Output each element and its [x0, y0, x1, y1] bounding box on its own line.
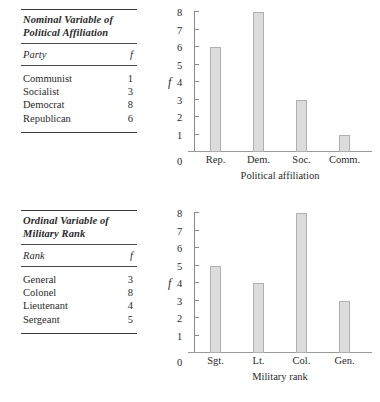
table-row: Lieutenant 4 — [21, 299, 137, 312]
table-row: Socialist 3 — [21, 85, 137, 98]
y-axis-origin-label: 0 — [177, 156, 182, 167]
bar-slot — [194, 213, 237, 353]
bar — [296, 213, 307, 353]
table-row: General 3 — [21, 273, 137, 286]
x-axis-tick-label: Comm. — [323, 154, 366, 165]
row-label: Sergeant — [23, 313, 60, 326]
column-header-frequency: f — [130, 250, 133, 261]
bar-slot — [323, 12, 366, 152]
bar — [339, 135, 350, 153]
x-axis-title: Military rank — [194, 371, 366, 382]
x-axis-title: Political affiliation — [194, 170, 366, 181]
y-axis-tick-label: 3 — [177, 295, 187, 306]
row-value: 5 — [123, 313, 133, 326]
panel-nominal-variable: Nominal Variable of Political Affiliatio… — [0, 0, 380, 201]
row-label: Republican — [23, 112, 71, 125]
row-value: 8 — [123, 98, 133, 111]
plot-area: f 12345678 0 — [194, 213, 366, 353]
margin-artifact — [2, 44, 10, 54]
y-axis-tick-label: 2 — [177, 112, 187, 123]
bar — [210, 47, 221, 152]
bar-slot — [280, 12, 323, 152]
y-axis-tick-label: 5 — [177, 260, 187, 271]
row-value: 4 — [123, 299, 133, 312]
bar — [253, 12, 264, 152]
bar-series — [194, 12, 366, 152]
y-axis-tick-label: 8 — [177, 7, 187, 18]
bar-chart-military-rank: f 12345678 0 Sgt.Lt.Col.Gen. Military ra… — [168, 207, 376, 392]
y-axis-tick-label: 6 — [177, 42, 187, 53]
x-axis-tick-label: Soc. — [280, 154, 323, 165]
table-bottom-rule — [21, 132, 137, 133]
table-row: Democrat 8 — [21, 98, 137, 111]
table-column-headers: Rank f — [21, 245, 137, 266]
row-label: Democrat — [23, 98, 64, 111]
table-bottom-rule — [21, 333, 137, 334]
x-axis-tick-label: Sgt. — [194, 355, 237, 366]
bar-slot — [280, 213, 323, 353]
column-header-category: Party — [23, 49, 46, 60]
y-axis-tick-label: 7 — [177, 24, 187, 35]
y-axis-tick-label: 1 — [177, 129, 187, 140]
y-axis-tick-label: 1 — [177, 330, 187, 341]
plot-area: f 12345678 0 — [194, 12, 366, 152]
y-axis-origin-label: 0 — [177, 357, 182, 368]
y-axis-tick-label: 2 — [177, 313, 187, 324]
bar-slot — [237, 213, 280, 353]
x-axis-tick-label: Gen. — [323, 355, 366, 366]
row-label: Communist — [23, 72, 72, 85]
y-axis-title: f — [168, 75, 171, 90]
table-body: Communist 1 Socialist 3 Democrat 8 Repub… — [21, 66, 137, 132]
y-axis-tick-label: 6 — [177, 243, 187, 254]
column-header-frequency: f — [130, 49, 133, 60]
bar-chart-political-affiliation: f 12345678 0 Rep.Dem.Soc.Comm. Political… — [168, 6, 376, 191]
table-row: Colonel 8 — [21, 286, 137, 299]
x-axis-tick-label: Dem. — [237, 154, 280, 165]
bar — [339, 301, 350, 354]
frequency-table-military-rank: Ordinal Variable of Military Rank Rank f… — [21, 210, 137, 334]
row-value: 3 — [123, 273, 133, 286]
bar — [296, 100, 307, 153]
y-axis-tick-label: 7 — [177, 225, 187, 236]
bar-slot — [194, 12, 237, 152]
x-axis-tick-label: Lt. — [237, 355, 280, 366]
frequency-table-political-affiliation: Nominal Variable of Political Affiliatio… — [21, 9, 137, 133]
bar-slot — [237, 12, 280, 152]
row-label: Lieutenant — [23, 299, 68, 312]
row-label: Socialist — [23, 85, 59, 98]
y-axis-tick-label: 5 — [177, 59, 187, 70]
y-axis-tick-label: 4 — [177, 278, 187, 289]
row-label: General — [23, 273, 56, 286]
x-axis-tick-label: Rep. — [194, 154, 237, 165]
table-row: Sergeant 5 — [21, 313, 137, 326]
table-column-headers: Party f — [21, 44, 137, 65]
bar-series — [194, 213, 366, 353]
table-row: Communist 1 — [21, 72, 137, 85]
row-value: 3 — [123, 85, 133, 98]
table-title: Ordinal Variable of Military Rank — [21, 211, 137, 244]
y-axis-tick-label: 8 — [177, 208, 187, 219]
x-axis-tick-labels: Rep.Dem.Soc.Comm. — [194, 154, 366, 165]
row-label: Colonel — [23, 286, 56, 299]
y-axis-tick-label: 4 — [177, 77, 187, 88]
panel-ordinal-variable: Ordinal Variable of Military Rank Rank f… — [0, 201, 380, 402]
column-header-category: Rank — [23, 250, 45, 261]
table-body: General 3 Colonel 8 Lieutenant 4 Sergean… — [21, 267, 137, 333]
row-value: 8 — [123, 286, 133, 299]
bar — [253, 283, 264, 353]
table-title: Nominal Variable of Political Affiliatio… — [21, 10, 137, 43]
y-axis-title: f — [168, 276, 171, 291]
row-value: 1 — [123, 72, 133, 85]
x-axis-tick-label: Col. — [280, 355, 323, 366]
bar-slot — [323, 213, 366, 353]
y-axis-tick-label: 3 — [177, 94, 187, 105]
table-row: Republican 6 — [21, 112, 137, 125]
bar — [210, 266, 221, 354]
x-axis-tick-labels: Sgt.Lt.Col.Gen. — [194, 355, 366, 366]
row-value: 6 — [123, 112, 133, 125]
